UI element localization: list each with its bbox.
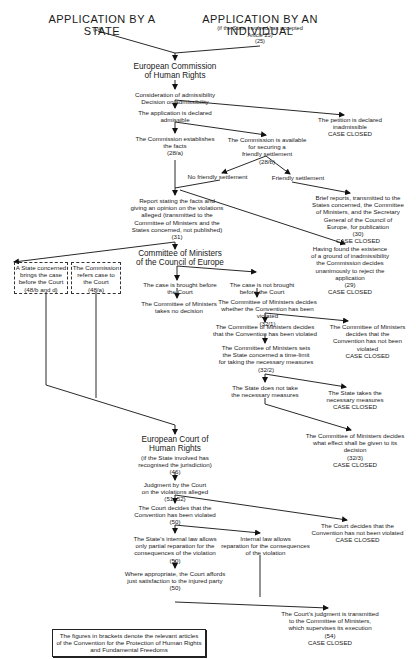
node-commission: European Commission of Human Rights [125,62,225,80]
application-by-state-title: APPLICATION BY A STATE [32,13,172,37]
node-european-court: European Court of Human Rights [130,435,220,453]
node-court-violated: The Court decides that the Convention ha… [130,504,220,526]
node-court-not-violated: The Court decides that the Convention ha… [305,522,410,544]
node-case-not-brought: The case is not brought before the Court [222,281,302,295]
node-state-not-take: The State does not take the necessary me… [225,384,305,398]
node-cm-violated: The Committee of Ministers decides that … [205,323,325,337]
node-declared-admissible: The application is declared admissible [130,109,220,123]
footnote-box: The figures in brackets denote the relev… [52,629,206,657]
node-friendly-settlement: Friendly settlement [268,174,328,181]
node-commission-refers: The Commission refers case to the Court … [71,262,121,294]
node-judgment-transmitted: The Court's judgment is transmitted to t… [275,610,385,646]
node-committee-of-ministers: Committee of Ministers of the Council of… [125,249,235,267]
node-state-takes: The State takes the necessary measures C… [315,389,395,411]
node-cm-not-violated: The Committee of Ministers decides that … [320,323,415,359]
node-court-note: (if the State involved has recognised th… [130,454,220,476]
node-cm-effect: The Committee of Ministers decides what … [300,432,410,468]
node-case-brought: The case is brought before the Court [135,281,225,295]
node-internal-law-allows: Internal law allows reparation for the c… [218,535,313,557]
node-establishes-facts: The Commission establishes the facts (28… [130,135,220,157]
node-no-friendly-settlement: No friendly settlement [180,173,255,180]
node-state-brings-case: A State concerned brings the case before… [14,262,68,294]
node-partial-reparation: The State's internal law allows only par… [125,535,225,564]
node-friendly-available: The Commission is available for securing… [222,136,312,165]
node-brief-reports: Brief reports, transmitted to the States… [306,194,410,244]
node-admissibility: Consideration of admissibility Decision … [120,91,230,105]
application-by-state-ref: (24) [88,26,108,33]
node-time-limit: The Committee of Ministers sets the Stat… [210,344,322,373]
node-report: Report stating the facts and giving an o… [122,197,232,240]
node-judgment: Judgment by the Court on the violations … [125,481,225,503]
application-by-individual-note: (if the State involved has accepted Arti… [200,25,320,45]
node-just-satisfaction: Where appropriate, the Court affords jus… [115,570,235,592]
node-ground-inadmissibility: Having found the existence of a ground o… [300,245,400,295]
node-inadmissible: The petition is declared inadmissible CA… [305,116,395,138]
